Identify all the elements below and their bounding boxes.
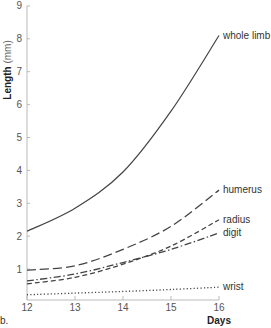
series-label-radius: radius xyxy=(223,214,250,225)
y-axis-title: Length (mm) xyxy=(2,40,13,99)
series-label-digit: digit xyxy=(223,227,242,238)
x-tick-label: 13 xyxy=(69,302,81,313)
y-tick-label: 9 xyxy=(16,0,22,11)
y-tick-label: 5 xyxy=(16,132,22,143)
x-tick-label: 16 xyxy=(213,302,225,313)
y-tick-label: 7 xyxy=(16,66,22,77)
x-tick-label: 15 xyxy=(165,302,177,313)
series-label-whole-limb: whole limb xyxy=(222,30,271,41)
y-tick-label: 8 xyxy=(16,33,22,44)
series-labels: whole limbhumerusradiusdigitwrist xyxy=(222,30,271,293)
series-line-whole-limb xyxy=(27,36,219,232)
x-tick-label: 14 xyxy=(117,302,129,313)
series-label-wrist: wrist xyxy=(222,281,244,292)
series-lines xyxy=(27,36,219,295)
series-label-humerus: humerus xyxy=(223,184,262,195)
x-tick-label: 12 xyxy=(21,302,33,313)
series-line-radius xyxy=(27,220,219,284)
series-line-digit xyxy=(27,233,219,281)
y-tick-label: 1 xyxy=(16,264,22,275)
line-chart: 1234567891213141516 whole limbhumerusrad… xyxy=(0,0,271,328)
y-tick-label: 2 xyxy=(16,231,22,242)
panel-label: b. xyxy=(0,315,8,326)
series-line-wrist xyxy=(27,287,219,295)
y-tick-label: 4 xyxy=(16,165,22,176)
y-tick-label: 6 xyxy=(16,99,22,110)
series-line-humerus xyxy=(27,190,219,270)
axes: 1234567891213141516 xyxy=(16,0,225,313)
y-tick-label: 3 xyxy=(16,198,22,209)
x-axis-title: Days xyxy=(207,315,231,326)
